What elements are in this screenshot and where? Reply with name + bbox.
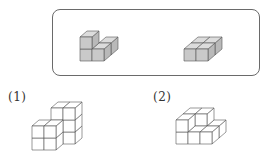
problem-2-label: (2) [153, 90, 172, 104]
problem-1-solid [32, 102, 82, 150]
problem-1-label: (1) [8, 90, 27, 104]
flat-square-piece [184, 37, 222, 61]
l-shaped-piece-figure [0, 0, 273, 162]
problem-2-solid [176, 108, 226, 144]
l-shaped-piece [80, 31, 118, 61]
